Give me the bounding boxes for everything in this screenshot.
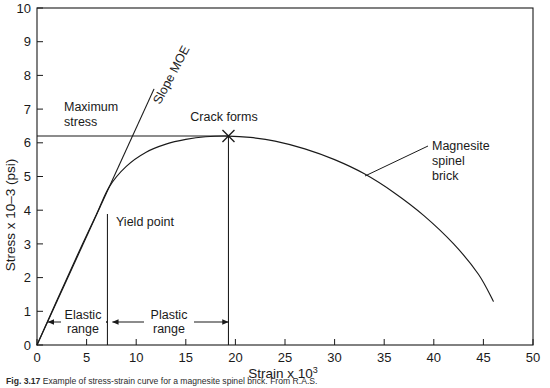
y-tick-label: 1 [24,304,31,319]
yield-point-label: Yield point [116,215,174,229]
annotation-plastic-range: Plastic range [144,308,194,337]
figure-caption-body: Example of stress-strain curve for a mag… [43,376,318,386]
y-tick-label: 2 [24,270,31,285]
material-label-line2: spinel [432,154,465,168]
material-label-line3: brick [432,169,459,183]
y-tick-label: 0 [24,338,31,353]
x-tick-label: 45 [476,350,490,365]
crack-forms-label: Crack forms [190,110,257,124]
figure-container: 0 1 2 3 4 5 6 7 8 9 10 0 5 10 15 20 25 3… [0,0,550,388]
plastic-range-label-line1: Plastic [151,308,188,322]
y-tick-label: 10 [17,1,31,16]
x-tick-label: 40 [427,350,441,365]
maximum-stress-label-line1: Maximum [64,100,118,114]
x-tick-label: 5 [83,350,90,365]
stress-strain-chart: 0 1 2 3 4 5 6 7 8 9 10 0 5 10 15 20 25 3… [0,0,550,388]
y-tick-label: 6 [24,135,31,150]
x-tick-label: 15 [179,350,193,365]
x-tick-label: 50 [526,350,540,365]
x-tick-label: 0 [33,350,40,365]
x-tick-label: 25 [278,350,292,365]
plot-frame [37,8,533,345]
x-tick-label: 30 [327,350,341,365]
x-axis-title-exponent: 3 [313,365,318,375]
x-tick-label: 20 [228,350,242,365]
y-tick-label: 3 [24,237,31,252]
y-tick-label: 9 [24,34,31,49]
y-axis-title: Stress x 10–3 (psi) [3,159,18,272]
y-axis-title-text: Stress x 10–3 (psi) [3,159,18,272]
elastic-range-label-line1: Elastic [65,308,102,322]
x-tick-labels: 0 5 10 15 20 25 30 35 40 45 50 [33,350,540,365]
y-tick-labels: 0 1 2 3 4 5 6 7 8 9 10 [17,1,31,353]
x-tick-label: 35 [377,350,391,365]
plastic-range-label-line2: range [153,322,185,336]
figure-caption: Fig. 3.17 Example of stress-strain curve… [6,376,550,387]
figure-caption-prefix: Fig. 3.17 [6,376,40,386]
elastic-range-label-line2: range [67,322,99,336]
y-tick-label: 4 [24,203,31,218]
x-tick-label: 10 [129,350,143,365]
material-label-line1: Magnesite [432,139,490,153]
y-tick-label: 7 [24,102,31,117]
annotation-elastic-range: Elastic range [61,308,106,337]
annotation-yield-point: Yield point [116,215,174,229]
maximum-stress-label-line2: stress [64,115,97,129]
y-tick-label: 5 [24,169,31,184]
annotation-crack-forms: Crack forms [190,110,257,124]
y-tick-label: 8 [24,68,31,83]
